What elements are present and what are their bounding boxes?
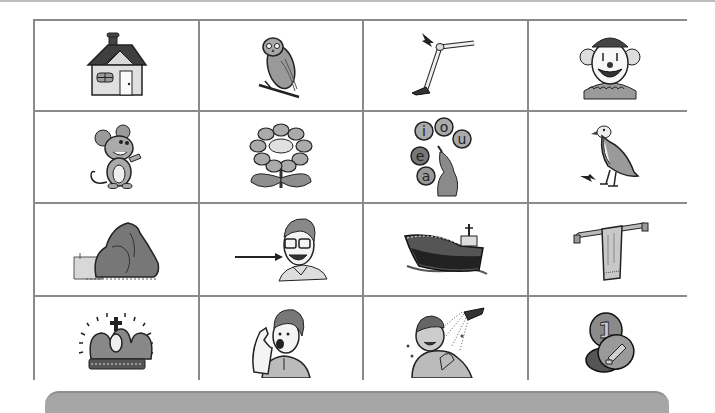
cell-coins[interactable]: coins 1 (529, 297, 691, 386)
ship-icon (401, 222, 491, 278)
bird-icon (578, 120, 642, 194)
cell-vowels[interactable]: vowel-balls-seal i o u e a (364, 112, 527, 202)
cell-clown[interactable]: clown (529, 21, 691, 110)
cell-rock[interactable]: rock (35, 204, 198, 295)
cell-flower[interactable]: flower (200, 112, 362, 202)
arrow-icon (580, 174, 596, 182)
rock-icon (72, 217, 162, 283)
towel-icon (570, 215, 650, 285)
man-with-glasses-icon (233, 215, 329, 285)
vowel-balls-seal-icon: i o u e a (410, 116, 482, 198)
cell-bird[interactable]: bird-with-arrow-at-foot (529, 112, 691, 202)
house-icon (82, 31, 152, 101)
top-divider (0, 0, 715, 2)
cell-boy-shouting[interactable]: boy-shouting (200, 297, 362, 386)
clown-icon (578, 31, 642, 101)
boy-showering-icon (404, 306, 488, 378)
vowel-a: a (421, 168, 430, 184)
vowel-u: u (457, 131, 466, 147)
picture-grid: house owl leg-with-arrow- (33, 19, 687, 380)
owl-icon (251, 31, 311, 101)
flower-icon (246, 122, 316, 192)
cell-ship[interactable]: ship (364, 204, 527, 295)
cell-towel[interactable]: towel (529, 204, 691, 295)
cell-boy-shower[interactable]: boy-showering (364, 297, 527, 386)
cell-leg[interactable]: leg-with-arrow-at-knee (364, 21, 527, 110)
cell-crown[interactable]: crown (35, 297, 198, 386)
leg-icon (406, 31, 486, 101)
cell-mouse[interactable]: mouse (35, 112, 198, 202)
boy-shouting-icon (248, 306, 314, 378)
arrow-icon (422, 33, 434, 47)
cell-man-cheek[interactable]: man-with-arrow-at-cheek (200, 204, 362, 295)
mouse-icon (85, 124, 149, 190)
vowel-e: e (415, 148, 424, 164)
vowel-o: o (439, 119, 448, 135)
bottom-bar (45, 391, 669, 413)
crown-icon (75, 309, 159, 375)
cell-owl[interactable]: owl (200, 21, 362, 110)
cell-house[interactable]: house (35, 21, 198, 110)
arrow-icon (235, 253, 283, 261)
coins-icon: 1 (580, 308, 640, 376)
vowel-i: i (422, 123, 426, 139)
